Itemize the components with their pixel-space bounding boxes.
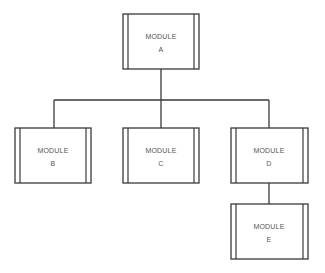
module-c-label-line1: MODULE — [145, 147, 176, 154]
module-d-node: MODULE D — [231, 128, 308, 183]
module-a-label-line2: A — [159, 46, 164, 53]
module-d-label-line1: MODULE — [253, 147, 284, 154]
module-e-node: MODULE E — [231, 204, 308, 259]
module-a-label-line1: MODULE — [145, 33, 176, 40]
module-b-label-line1: MODULE — [37, 147, 68, 154]
module-c-label-line2: C — [158, 160, 163, 167]
module-e-label-line1: MODULE — [253, 223, 284, 230]
module-b-label-line2: B — [51, 160, 56, 167]
module-c-node: MODULE C — [123, 128, 199, 183]
module-a-node: MODULE A — [123, 14, 199, 69]
module-hierarchy-diagram: MODULE A MODULE B MODULE C MODULE D MODU… — [0, 0, 325, 273]
module-b-node: MODULE B — [15, 128, 91, 183]
module-d-label-line2: D — [266, 160, 271, 167]
module-e-label-line2: E — [267, 236, 272, 243]
